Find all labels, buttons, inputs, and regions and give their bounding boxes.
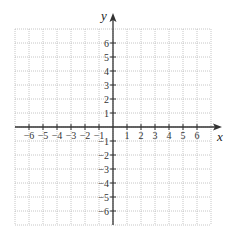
y-tick-label: −4 [98,178,109,189]
x-tick-label: −6 [24,130,35,141]
x-tick-label: −3 [66,130,77,141]
y-tick-label: 3 [104,80,109,91]
y-tick-label: 1 [104,108,109,119]
axes [15,13,222,225]
x-tick-label: 5 [181,130,186,141]
x-axis-label: x [216,129,223,144]
x-tick-label: −2 [80,130,91,141]
y-axis-label: y [99,8,107,23]
y-tick-label: −6 [98,206,109,217]
coordinate-plane: −6−5−4−3−2−1123456654321−1−2−3−4−5−6 x y [0,0,237,233]
x-tick-label: −4 [52,130,63,141]
y-tick-label: 2 [104,94,109,105]
y-tick-label: −1 [98,136,109,147]
y-tick-label: 4 [104,66,109,77]
y-tick-label: 6 [104,38,109,49]
x-tick-label: 6 [195,130,200,141]
x-tick-label: −5 [38,130,49,141]
y-tick-label: −5 [98,192,109,203]
x-tick-label: 3 [153,130,158,141]
x-tick-label: 4 [167,130,172,141]
y-tick-label: −2 [98,150,109,161]
y-tick-label: 5 [104,52,109,63]
x-tick-label: 1 [125,130,130,141]
y-tick-label: −3 [98,164,109,175]
x-tick-label: 2 [139,130,144,141]
